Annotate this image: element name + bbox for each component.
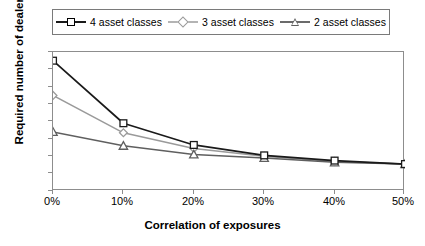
series-line	[53, 132, 405, 164]
data-point-square-icon	[331, 157, 338, 164]
data-point-square-icon	[261, 152, 268, 159]
legend-key-triangle-icon	[280, 16, 310, 28]
legend-item-4-asset-classes: 4 asset classes	[54, 10, 164, 34]
chart-legend: 4 asset classes 3 asset classes 2 asset …	[52, 9, 390, 35]
series-canvas	[53, 52, 405, 191]
legend-item-3-asset-classes: 3 asset classes	[166, 10, 276, 34]
x-tick-label: 20%	[171, 196, 215, 207]
legend-item-2-asset-classes: 2 asset classes	[278, 10, 388, 34]
data-point-square-icon	[402, 161, 405, 168]
legend-key-square-icon	[56, 16, 86, 28]
legend-label: 3 asset classes	[202, 17, 274, 28]
series-line	[53, 61, 405, 164]
data-point-square-icon	[190, 142, 197, 149]
x-tick-mark	[122, 190, 123, 194]
x-tick-mark	[52, 190, 53, 194]
series-line	[53, 95, 405, 164]
legend-key-diamond-icon	[168, 16, 198, 28]
x-tick-mark	[403, 190, 404, 194]
data-point-triangle-icon	[53, 128, 57, 136]
x-tick-label: 0%	[30, 196, 74, 207]
x-tick-mark	[263, 190, 264, 194]
x-tick-label: 40%	[312, 196, 356, 207]
legend-label: 2 asset classes	[314, 17, 386, 28]
x-tick-label: 50%	[381, 196, 425, 207]
x-tick-mark	[193, 190, 194, 194]
data-point-square-icon	[120, 120, 127, 127]
data-point-diamond-icon	[53, 92, 57, 100]
data-point-square-icon	[53, 57, 56, 64]
x-tick-mark	[334, 190, 335, 194]
plot-area	[52, 51, 404, 190]
chart-figure: 4 asset classes 3 asset classes 2 asset …	[0, 0, 425, 246]
x-axis-title: Correlation of exposures	[0, 219, 425, 231]
x-tick-label: 30%	[241, 196, 285, 207]
x-tick-label: 10%	[100, 196, 144, 207]
y-axis-title: Required number of dealers	[13, 0, 25, 153]
series-4-asset-classes	[53, 57, 405, 167]
legend-label: 4 asset classes	[90, 17, 162, 28]
data-point-diamond-icon	[120, 129, 128, 137]
